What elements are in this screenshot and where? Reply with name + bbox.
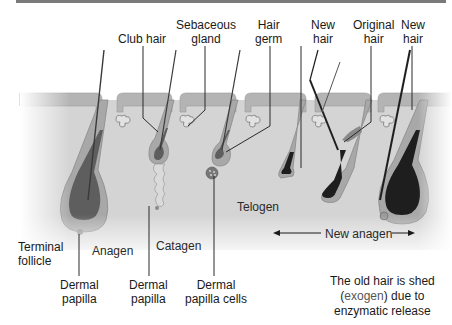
label-original-hair: Original hair: [353, 18, 394, 46]
note-line-3: enzymatic release: [330, 304, 435, 319]
note-line-2: (exogen) due to: [330, 289, 435, 304]
hair-cycle-diagram: Club hair Sebaceous gland Hair germ New …: [0, 0, 452, 325]
phase-new-anagen: New anagen: [325, 227, 392, 241]
note-line-1: The old hair is shed: [330, 274, 435, 289]
phase-telogen: Telogen: [237, 200, 279, 214]
exogen-term: exogen: [344, 289, 383, 303]
label-new-hair-2: New hair: [401, 18, 425, 46]
label-new-hair-1: New hair: [311, 18, 335, 46]
phase-catagen: Catagen: [156, 239, 201, 253]
top-rule: [16, 0, 446, 3]
label-terminal-follicle: Terminal follicle: [18, 240, 63, 268]
label-dermal-papilla-2: Dermal papilla: [129, 278, 168, 306]
phase-anagen: Anagen: [92, 244, 133, 258]
exogen-note: The old hair is shed (exogen) due to enz…: [330, 274, 435, 319]
label-dermal-papilla-cells: Dermal papilla cells: [185, 278, 247, 306]
label-sebaceous-gland: Sebaceous gland: [176, 18, 236, 46]
label-dermal-papilla-1: Dermal papilla: [60, 278, 99, 306]
label-hair-germ: Hair germ: [255, 18, 282, 46]
label-club-hair: Club hair: [118, 32, 166, 46]
